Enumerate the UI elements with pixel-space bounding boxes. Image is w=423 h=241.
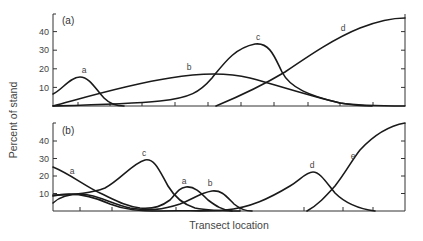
ecology-transect-chart: Percent of stand 10 20 30 40 — [0, 0, 423, 241]
panel-b-label-b1: b — [208, 178, 213, 188]
panel-b-curve-a — [53, 167, 232, 211]
panel-a-label-b: b — [187, 62, 192, 72]
panel-b-tick-10: 10 — [39, 189, 49, 199]
panel-b-tick-40: 40 — [39, 136, 49, 146]
panel-a-curve-a — [53, 77, 124, 106]
panel-b-label-d: d — [310, 160, 315, 170]
panel-b-label-c: c — [142, 148, 147, 158]
panel-a-tick-10: 10 — [39, 83, 49, 93]
panel-b-y-ticks — [53, 141, 405, 194]
panel-b: 10 20 30 40 (b) a a b c d e — [39, 123, 405, 211]
panel-a-label: (a) — [62, 15, 74, 26]
panel-a: 10 20 30 40 (a) a b c d — [39, 14, 405, 106]
panel-a-label-a: a — [82, 65, 87, 75]
panel-b-label: (b) — [62, 125, 74, 136]
panel-a-tick-40: 40 — [39, 27, 49, 37]
panel-b-curve-e — [307, 123, 405, 211]
panel-a-label-d: d — [341, 23, 346, 33]
panel-a-tick-30: 30 — [39, 45, 49, 55]
panel-b-label-e: e — [351, 151, 356, 161]
panel-a-tick-20: 20 — [39, 64, 49, 74]
x-axis-title: Transect location — [189, 219, 269, 231]
panel-a-curve-b — [53, 74, 372, 106]
panel-b-label-a2: a — [182, 176, 187, 186]
y-axis-title: Percent of stand — [7, 82, 19, 159]
panel-b-tick-30: 30 — [39, 154, 49, 164]
panel-a-curve-d — [216, 18, 405, 106]
panel-a-y-ticks — [53, 32, 405, 88]
panel-b-label-a1: a — [70, 166, 75, 176]
panel-a-label-c: c — [256, 32, 261, 42]
panel-b-tick-20: 20 — [39, 171, 49, 181]
